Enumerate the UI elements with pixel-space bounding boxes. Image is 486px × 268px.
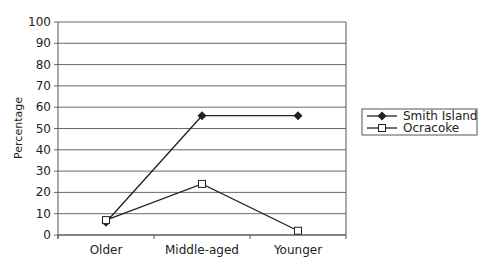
x-axis: OlderMiddle-agedYounger [58,235,346,257]
y-axis-tick-labels: 0102030405060708090100 [28,15,51,242]
data-series [102,111,303,234]
x-tick-label: Middle-aged [165,243,239,257]
square-marker [379,125,386,132]
legend-label: Ocracoke [403,121,459,135]
series-ocracoke [103,180,302,234]
line-chart: 0102030405060708090100 OlderMiddle-agedY… [0,0,486,268]
square-marker [103,217,110,224]
square-marker [295,227,302,234]
gridlines [54,22,346,239]
y-tick-label: 50 [36,122,51,136]
x-tick-label: Older [90,243,123,257]
y-tick-label: 70 [36,79,51,93]
y-tick-label: 60 [36,100,51,114]
y-tick-label: 80 [36,58,51,72]
y-tick-label: 100 [28,15,51,29]
square-marker [199,180,206,187]
y-tick-label: 0 [43,228,51,242]
x-tick-label: Younger [273,243,322,257]
y-tick-label: 30 [36,164,51,178]
legend: Smith IslandOcracoke [362,109,477,135]
diamond-marker [294,111,303,120]
y-tick-label: 90 [36,36,51,50]
y-tick-label: 10 [36,207,51,221]
y-tick-label: 40 [36,143,51,157]
y-axis-title: Percentage [12,97,25,159]
y-tick-label: 20 [36,185,51,199]
